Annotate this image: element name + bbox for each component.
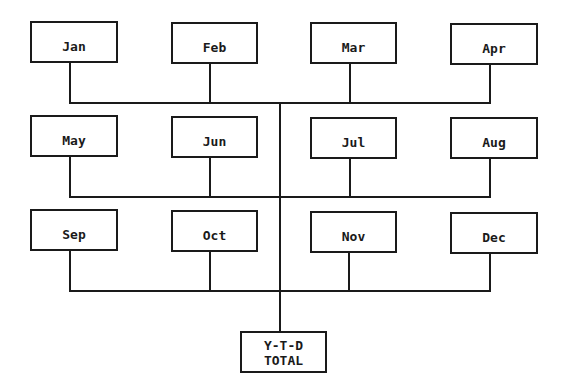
- month-label: Aug: [482, 127, 505, 150]
- connector: [349, 64, 351, 104]
- connector: [209, 252, 211, 291]
- connector: [209, 64, 211, 103]
- connector: [489, 254, 491, 292]
- month-box-apr: Apr: [450, 23, 538, 65]
- month-label: Oct: [203, 220, 226, 243]
- month-label: Nov: [342, 221, 365, 244]
- connector: [209, 158, 211, 197]
- month-box-jun: Jun: [171, 116, 258, 158]
- connector: [69, 157, 71, 197]
- connector: [349, 159, 351, 198]
- month-box-feb: Feb: [171, 22, 258, 64]
- month-label: Feb: [203, 32, 226, 55]
- month-box-sep: Sep: [30, 209, 118, 251]
- month-box-may: May: [30, 115, 118, 157]
- total-line-1: Y-T-D: [264, 338, 303, 353]
- connector: [69, 63, 71, 103]
- month-box-aug: Aug: [450, 117, 538, 159]
- month-box-mar: Mar: [310, 22, 397, 64]
- connector: [348, 253, 350, 292]
- total-line-2: TOTAL: [264, 353, 303, 368]
- month-box-dec: Dec: [450, 212, 538, 254]
- ytd-total-box: Y-T-D TOTAL: [240, 331, 327, 373]
- month-box-nov: Nov: [310, 211, 397, 253]
- connector: [489, 65, 491, 104]
- month-box-jan: Jan: [30, 21, 118, 63]
- month-label: Mar: [342, 32, 365, 55]
- trunk-connector: [279, 102, 281, 332]
- month-label: Jun: [203, 126, 226, 149]
- month-label: Jul: [342, 127, 365, 150]
- month-label: Apr: [482, 33, 505, 56]
- month-box-oct: Oct: [171, 210, 258, 252]
- month-label: Jan: [62, 31, 85, 54]
- ytd-total-label: Y-T-D TOTAL: [264, 336, 303, 368]
- month-label: Sep: [62, 219, 85, 242]
- connector: [69, 251, 71, 291]
- month-box-jul: Jul: [310, 117, 397, 159]
- month-label: May: [62, 125, 85, 148]
- connector: [489, 159, 491, 198]
- month-label: Dec: [482, 222, 505, 245]
